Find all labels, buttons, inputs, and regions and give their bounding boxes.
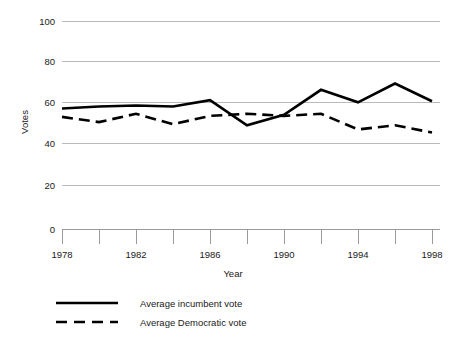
y-tick-label-20: 20 <box>44 180 55 191</box>
y-tick-label-60: 60 <box>44 97 55 108</box>
x-tick-label-1994: 1994 <box>347 249 368 260</box>
y-tick-label-0: 0 <box>50 224 55 235</box>
y-tick-label-40: 40 <box>44 138 55 149</box>
chart-container: 100 80 60 40 20 0 Votes 1978 <box>0 0 454 344</box>
x-tick-label-1986: 1986 <box>199 249 220 260</box>
x-tick-label-1998: 1998 <box>421 249 442 260</box>
votes-by-year-line-chart: 100 80 60 40 20 0 Votes 1978 <box>0 0 454 344</box>
x-tick-label-1978: 1978 <box>51 249 72 260</box>
x-tick-label-1982: 1982 <box>125 249 146 260</box>
y-axis-title: Votes <box>19 110 30 134</box>
chart-background <box>0 0 454 344</box>
x-axis-title: Year <box>223 268 242 279</box>
y-tick-label-100: 100 <box>39 16 55 27</box>
x-tick-label-1990: 1990 <box>273 249 294 260</box>
legend-label-democratic: Average Democratic vote <box>140 317 247 328</box>
legend-label-incumbent: Average incumbent vote <box>140 298 242 309</box>
y-tick-label-80: 80 <box>44 56 55 67</box>
